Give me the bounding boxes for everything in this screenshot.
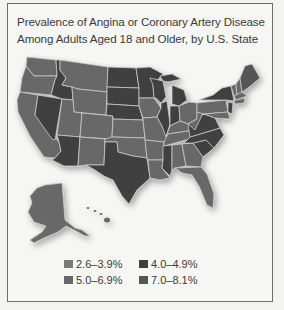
state-wyoming: [72, 87, 107, 115]
state-maine: [240, 64, 260, 92]
state-kansas: [112, 119, 145, 138]
legend-label: 4.0–4.9%: [151, 258, 197, 270]
state-michigan-up: [160, 74, 181, 82]
legend-swatch: [64, 260, 73, 268]
state-hawaii-1: [87, 207, 90, 209]
state-alaska: [28, 183, 90, 243]
state-south-dakota: [107, 87, 139, 106]
legend-swatch: [139, 276, 148, 284]
state-new-mexico: [78, 137, 105, 166]
legend-swatch: [139, 260, 148, 268]
state-arkansas: [145, 140, 164, 160]
legend-label: 7.0–8.1%: [151, 274, 197, 286]
state-colorado: [80, 113, 113, 139]
legend-label: 2.6–3.9%: [76, 258, 122, 270]
state-florida: [175, 167, 214, 208]
legend-swatch: [64, 276, 73, 284]
state-hawaii-3: [100, 213, 103, 215]
legend-item-4-0-4-9: 4.0–4.9%: [139, 258, 197, 270]
legend-label: 5.0–6.9%: [76, 274, 122, 286]
state-north-dakota: [107, 67, 139, 88]
legend-item-2-6-3-9: 2.6–3.9%: [64, 258, 122, 270]
state-new-jersey: [228, 102, 233, 114]
legend-item-7-0-8-1: 7.0–8.1%: [139, 274, 197, 286]
state-new-york: [199, 86, 234, 101]
state-hawaii-4: [104, 218, 110, 223]
legend-item-5-0-6-9: 5.0–6.9%: [64, 274, 122, 286]
state-hawaii-2: [94, 210, 97, 212]
state-pennsylvania: [197, 100, 228, 114]
state-michigan: [172, 85, 187, 106]
